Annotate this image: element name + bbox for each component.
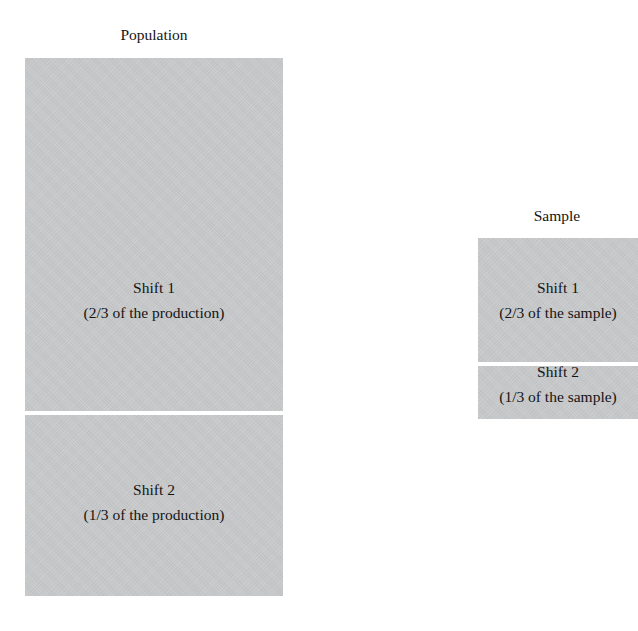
population-shift2-label: Shift 2 (1/3 of the production) <box>25 482 283 522</box>
sample-shift2-name: Shift 2 <box>478 364 638 380</box>
population-shift1-label: Shift 1 (2/3 of the production) <box>25 280 283 320</box>
sample-shift1-name: Shift 1 <box>478 280 638 296</box>
population-shift1-name: Shift 1 <box>25 280 283 296</box>
sample-shift2-label: Shift 2 (1/3 of the sample) <box>478 364 638 404</box>
sample-shift1-proportion: (2/3 of the sample) <box>478 305 638 321</box>
population-title: Population <box>25 27 283 43</box>
population-shift2-name: Shift 2 <box>25 482 283 498</box>
population-segment-divider <box>25 411 283 415</box>
sample-shift1-label: Shift 1 (2/3 of the sample) <box>478 280 638 320</box>
population-shift1-proportion: (2/3 of the production) <box>25 305 283 321</box>
sample-shift2-proportion: (1/3 of the sample) <box>478 389 638 405</box>
population-shift2-proportion: (1/3 of the production) <box>25 507 283 523</box>
figure-canvas: Population Shift 1 (2/3 of the productio… <box>0 0 638 631</box>
population-block: Shift 1 (2/3 of the production) Shift 2 … <box>25 58 283 596</box>
sample-block: Shift 1 (2/3 of the sample) Shift 2 (1/3… <box>478 238 638 419</box>
sample-title: Sample <box>478 208 636 224</box>
